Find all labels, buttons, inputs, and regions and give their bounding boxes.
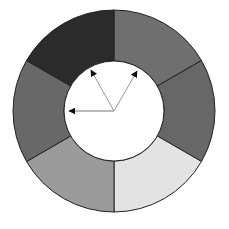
diagram-canvas	[0, 0, 229, 229]
segmented-ring	[0, 0, 229, 229]
